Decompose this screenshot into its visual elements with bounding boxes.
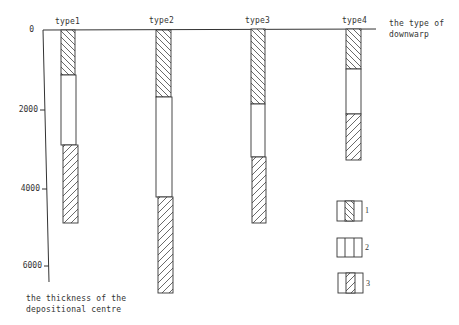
x-axis-title-line2: downwarp <box>389 30 429 39</box>
x-axis-line <box>43 29 376 30</box>
legend-label-1: 1 <box>365 206 369 215</box>
y-tick-label-2000: 2000 <box>4 105 38 114</box>
y-axis-line <box>43 30 49 282</box>
legend-swatch-1 <box>337 201 362 221</box>
legend-label-2: 2 <box>365 243 369 252</box>
column-type3 <box>251 29 266 223</box>
column-label-type4: type4 <box>342 16 367 25</box>
y-axis-title-line1: the thickness of the <box>26 294 126 303</box>
legend-label-3: 3 <box>366 279 370 288</box>
y-tick-label-4000: 4000 <box>6 184 40 193</box>
y-axis-title-line2: depositional centre <box>26 305 121 314</box>
diagram-canvas <box>0 0 459 325</box>
y-tick-label-6000: 6000 <box>8 261 42 270</box>
legend-swatch-2 <box>337 238 362 257</box>
x-axis-title-line1: the type of <box>389 19 444 28</box>
column-type1 <box>61 30 78 223</box>
column-type4 <box>346 29 361 160</box>
y-tick-label-0: 0 <box>0 25 34 34</box>
column-label-type3: type3 <box>245 16 270 25</box>
legend-swatch-3 <box>338 273 363 293</box>
column-label-type2: type2 <box>149 16 174 25</box>
column-type2 <box>156 30 173 293</box>
column-label-type1: type1 <box>55 17 80 26</box>
